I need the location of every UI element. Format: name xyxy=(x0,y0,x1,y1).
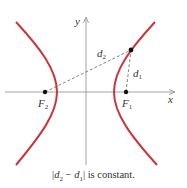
focus-f2-point xyxy=(43,90,47,94)
hyperbola-right-branch xyxy=(114,22,157,165)
focus-f2-label: F2 xyxy=(37,97,49,111)
y-axis xyxy=(84,17,89,165)
hyperbola-diagram: y x F2 F1 d2 d1 xyxy=(0,0,187,170)
x-axis xyxy=(5,90,175,95)
y-axis-label: y xyxy=(74,15,80,27)
hyperbola-left-branch xyxy=(16,22,57,165)
focus-f1-point xyxy=(124,90,128,94)
caption-minus: − xyxy=(63,169,74,180)
focus-f1-label: F1 xyxy=(121,97,133,111)
caption-rest: is constant. xyxy=(85,169,135,180)
x-axis-label: x xyxy=(167,93,173,105)
distance-d1-label: d1 xyxy=(133,67,143,81)
distance-d2-label: d2 xyxy=(97,47,107,61)
point-on-curve xyxy=(129,48,134,53)
diagram-caption: |d2 − d1| is constant. xyxy=(0,169,187,183)
